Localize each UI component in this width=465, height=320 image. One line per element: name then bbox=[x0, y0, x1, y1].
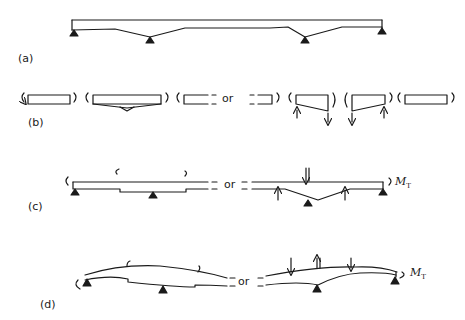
moment-symbol: M bbox=[395, 175, 406, 188]
or-text-c: or bbox=[224, 178, 235, 191]
or-text-d: or bbox=[238, 275, 249, 288]
moment-label-d: MT bbox=[410, 266, 426, 281]
label-a: (a) bbox=[18, 52, 33, 65]
structural-beam-diagram bbox=[0, 0, 465, 320]
moment-subscript: T bbox=[421, 273, 426, 281]
moment-symbol: M bbox=[410, 266, 421, 279]
moment-label-c: MT bbox=[395, 175, 411, 190]
label-d: (d) bbox=[40, 298, 56, 311]
or-text-b: or bbox=[222, 92, 233, 105]
moment-subscript: T bbox=[406, 182, 411, 190]
label-b: (b) bbox=[28, 116, 44, 129]
panel-a-beam bbox=[70, 20, 386, 43]
label-c: (c) bbox=[28, 200, 43, 213]
panel-b-segments bbox=[22, 93, 454, 122]
